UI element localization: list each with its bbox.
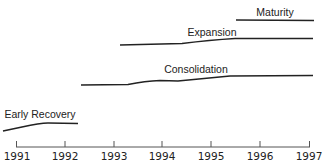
tick-label-1994: 1994 (149, 150, 176, 162)
early-recovery-line (3, 123, 78, 131)
x-axis: 1991 1992 1993 1994 1995 1996 1997 (4, 141, 323, 162)
consolidation-line (81, 76, 313, 86)
label-maturity: Maturity (256, 6, 294, 18)
tick-label-1995: 1995 (198, 150, 225, 162)
tick-label-1991: 1991 (4, 150, 31, 162)
tick-label-1992: 1992 (52, 150, 79, 162)
label-consolidation: Consolidation (164, 63, 228, 75)
maturity-line (236, 20, 314, 21)
phase-chart: Maturity Expansion Consolidation Early R… (0, 0, 324, 166)
tick-label-1997: 1997 (296, 150, 323, 162)
tick-label-1996: 1996 (247, 150, 274, 162)
tick-label-1993: 1993 (101, 150, 128, 162)
expansion-line (120, 39, 313, 46)
label-early-recovery: Early Recovery (4, 108, 76, 120)
label-expansion: Expansion (187, 26, 236, 38)
